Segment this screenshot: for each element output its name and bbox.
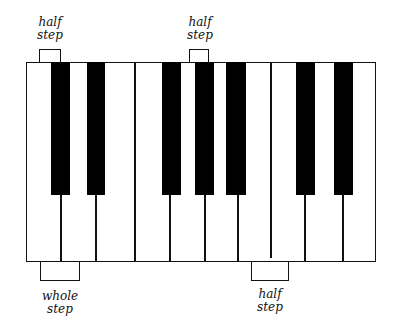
label-line: step [245,301,295,314]
label-line: step [25,29,75,42]
black-key [87,62,105,195]
black-key [162,62,181,195]
label-line: step [175,29,225,42]
white-key-divider [270,62,272,258]
half-step-bracket-top-left [39,49,61,63]
label-half-step-top-mid: half step [175,16,225,42]
label-line: step [35,303,85,316]
black-key [334,62,353,195]
black-key [51,62,70,195]
label-half-step-top-left: half step [25,16,75,42]
white-key-divider [134,62,136,262]
whole-step-bracket [40,262,80,281]
black-key [296,62,315,195]
half-step-bracket-top-mid [189,49,209,63]
label-half-step-bottom: half step [245,288,295,314]
black-key [226,62,246,195]
black-key [195,62,214,195]
label-whole-step: whole step [35,290,85,316]
half-step-bracket-bottom [251,262,289,281]
